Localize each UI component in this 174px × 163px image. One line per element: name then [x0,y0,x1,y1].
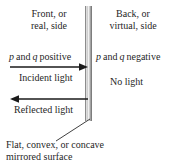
incident-light-arrow-icon [10,62,88,72]
q-variable-positive: q [32,51,37,62]
no-light-label: No light [110,76,143,88]
incident-light-label: Incident light [19,72,73,84]
mirror-caption-line2: mirrored surface [6,151,104,163]
p-q-negative-label: pandqnegative [96,51,160,63]
front-side-label-line1: Front, or [18,8,80,20]
front-side-label-line2: real, side [18,20,80,32]
mirror-sign-convention-figure: Front, or real, side Back, or virtual, s… [0,0,174,163]
negative-sign-word: negative [126,51,160,62]
front-side-label: Front, or real, side [18,8,80,31]
reflected-light-label: Reflected light [14,104,73,116]
positive-sign-word: positive [39,51,71,62]
p-variable-positive: p [9,51,14,62]
p-variable-negative: p [96,51,101,62]
p-q-positive-label: pandqpositive [9,51,71,63]
and-word-positive: and [16,51,30,62]
mirror-caption-line1: Flat, convex, or concave [6,139,104,151]
and-word-negative: and [103,51,117,62]
mirror-caption: Flat, convex, or concave mirrored surfac… [6,139,104,162]
back-side-label-line1: Back, or [97,8,169,20]
back-side-label: Back, or virtual, side [97,8,169,31]
q-variable-negative: q [119,51,124,62]
back-side-label-line2: virtual, side [97,20,169,32]
reflected-light-arrow-icon [10,94,88,104]
